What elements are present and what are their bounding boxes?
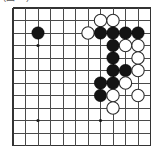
white-stone[interactable] [94,14,106,26]
white-stone[interactable] [119,77,131,89]
white-stone[interactable] [132,39,144,51]
white-stone[interactable] [132,64,144,76]
black-stone[interactable] [94,27,106,39]
go-diagram-figure: (図11) [0,0,163,162]
black-stone[interactable] [107,52,119,64]
black-stone[interactable] [119,64,131,76]
black-stone[interactable] [107,39,119,51]
star-point-lower-left [36,119,39,122]
white-stone[interactable] [107,102,119,114]
black-stone[interactable] [107,77,119,89]
white-stone[interactable] [107,89,119,101]
star-point-upper-left [36,44,39,47]
black-stone[interactable] [132,27,144,39]
white-stone[interactable] [119,39,131,51]
go-board-canvas[interactable] [0,0,163,162]
black-stone[interactable] [107,27,119,39]
white-stone[interactable] [132,89,144,101]
black-stone[interactable] [94,89,106,101]
go-board[interactable] [0,0,163,162]
white-stone[interactable] [82,27,94,39]
black-stone[interactable] [32,27,44,39]
black-stone[interactable] [94,77,106,89]
black-stone[interactable] [119,27,131,39]
black-stone[interactable] [107,64,119,76]
star-point-lower-right [99,119,102,122]
white-stone[interactable] [132,52,144,64]
white-stone[interactable] [107,14,119,26]
